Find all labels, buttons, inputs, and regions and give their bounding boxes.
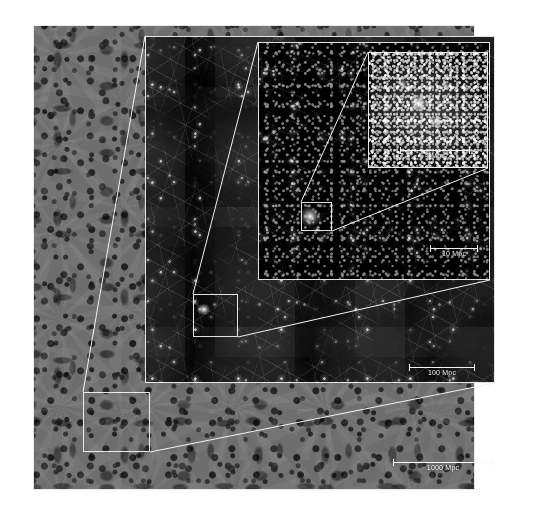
zoom-region-middle [301,202,332,231]
panel-galaxy-cluster-closeup [368,52,488,168]
cluster-member-galaxy-b [398,80,407,88]
simulation-zoom-figure: 1000 Mpc 100 Mpc 10 Mpc 4 Mpc [0,0,536,514]
cluster-glow-inner [368,52,488,168]
panel-inner-border [368,52,488,168]
cluster-member-galaxy-a [430,116,442,127]
zoom-region-large [193,294,238,337]
halo-point-field-inner-fine [368,52,488,168]
brightest-cluster-galaxy [410,96,427,111]
cluster-member-galaxy-c [442,82,449,89]
zoom-region-outer [83,392,150,452]
halo-point-field-inner [368,52,488,168]
